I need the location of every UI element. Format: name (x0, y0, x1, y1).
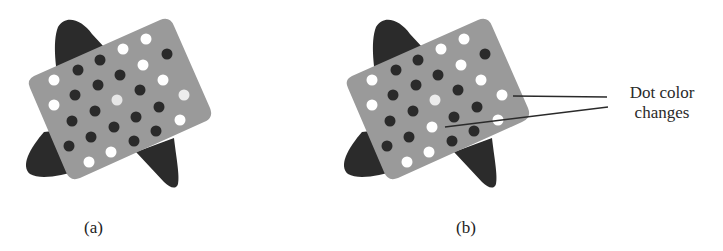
panel-b (344, 19, 529, 188)
figure-canvas (0, 0, 723, 251)
annotation-line-2: changes (612, 103, 712, 123)
dot-color-changes-annotation: Dot color changes (612, 83, 712, 123)
annotation-line-1: Dot color (612, 83, 712, 103)
panel-b-label: (b) (456, 218, 476, 238)
changed-dot (427, 122, 438, 133)
panel-a-label: (a) (84, 218, 103, 238)
panel-a (26, 19, 211, 188)
leader-line-1 (513, 96, 607, 97)
